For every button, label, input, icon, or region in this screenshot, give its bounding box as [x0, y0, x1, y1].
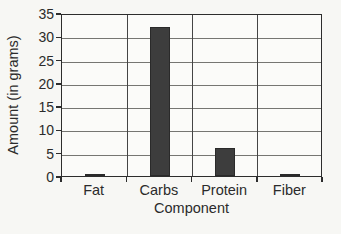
x-tick-mark	[126, 177, 128, 182]
y-tick-mark	[56, 37, 61, 39]
gridline-vertical	[192, 15, 193, 176]
x-tick-mark	[256, 177, 258, 182]
y-tick-mark	[56, 13, 61, 15]
y-tick-label: 35	[30, 6, 54, 22]
gridline-vertical	[127, 15, 128, 176]
bar-carbs	[150, 27, 170, 176]
y-tick-mark	[56, 83, 61, 85]
y-tick-label: 15	[30, 99, 54, 115]
y-tick-label: 30	[30, 29, 54, 45]
x-tick-mark	[60, 177, 62, 182]
bar-fiber	[280, 174, 300, 176]
x-axis-title: Component	[61, 200, 322, 216]
y-axis-title: Amount (in grams)	[5, 35, 21, 154]
y-tick-mark	[56, 130, 61, 132]
x-tick-mark	[191, 177, 193, 182]
x-tick-label-carbs: Carbs	[126, 182, 191, 198]
x-tick-label-fiber: Fiber	[257, 182, 322, 198]
bar-fat	[85, 174, 105, 176]
x-tick-label-fat: Fat	[61, 182, 126, 198]
bar-protein	[215, 148, 235, 176]
y-tick-mark	[56, 60, 61, 62]
y-tick-mark	[56, 153, 61, 155]
x-tick-label-protein: Protein	[192, 182, 257, 198]
y-tick-label: 5	[30, 146, 54, 162]
y-tick-mark	[56, 106, 61, 108]
gridline-vertical	[257, 15, 258, 176]
plot-area	[61, 14, 322, 177]
y-tick-label: 0	[30, 169, 54, 185]
x-tick-mark	[321, 177, 323, 182]
y-tick-label: 10	[30, 122, 54, 138]
bar-chart: Amount (in grams) Component 051015202530…	[0, 0, 341, 234]
y-tick-label: 25	[30, 53, 54, 69]
y-tick-label: 20	[30, 76, 54, 92]
